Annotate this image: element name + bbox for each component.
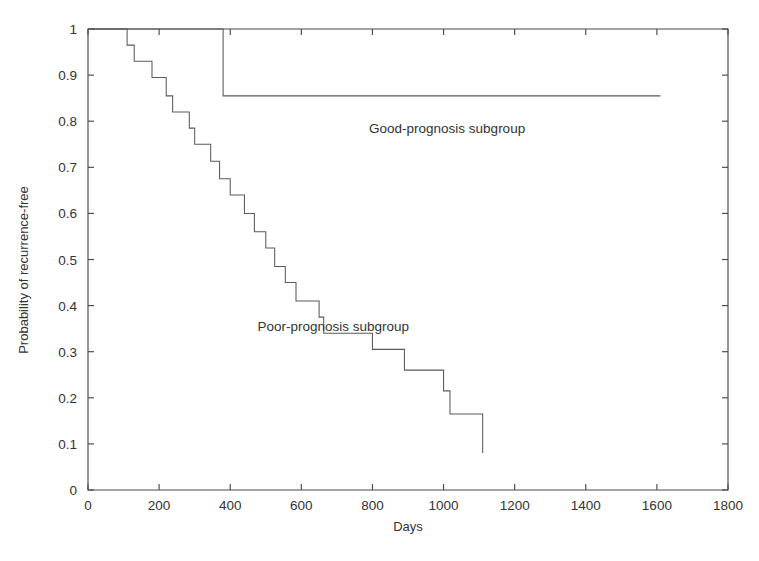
x-tick-label: 200 — [148, 498, 171, 513]
kaplan-meier-figure: 020040060080010001200140016001800 00.10.… — [0, 0, 759, 561]
y-tick-label: 0 — [69, 483, 77, 498]
y-tick-label: 0.2 — [58, 391, 77, 406]
x-tick-label: 400 — [219, 498, 242, 513]
y-tick-label: 0.7 — [58, 160, 77, 175]
axes-frame — [88, 29, 728, 490]
y-axis-tick-labels: 00.10.20.30.40.50.60.70.80.91 — [58, 22, 77, 498]
x-tick-label: 1200 — [500, 498, 530, 513]
series-annotations: Good-prognosis subgroupPoor-prognosis su… — [258, 121, 526, 334]
x-tick-label: 800 — [361, 498, 384, 513]
y-tick-label: 0.6 — [58, 206, 77, 221]
data-series — [88, 29, 660, 453]
survival-curve-chart: 020040060080010001200140016001800 00.10.… — [0, 0, 759, 561]
x-axis-label: Days — [393, 519, 423, 534]
y-tick-label: 0.3 — [58, 345, 77, 360]
y-tick-label: 0.9 — [58, 68, 77, 83]
y-tick-label: 0.5 — [58, 253, 77, 268]
y-axis-label: Probability of recurrence-free — [16, 186, 31, 354]
y-tick-label: 0.8 — [58, 114, 77, 129]
tick-marks — [88, 29, 728, 490]
x-tick-label: 0 — [84, 498, 92, 513]
curve-label: Good-prognosis subgroup — [369, 121, 525, 136]
x-axis-tick-labels: 020040060080010001200140016001800 — [84, 498, 743, 513]
x-tick-label: 1800 — [713, 498, 743, 513]
y-tick-label: 1 — [69, 22, 77, 37]
x-tick-label: 1600 — [642, 498, 672, 513]
x-tick-label: 600 — [290, 498, 313, 513]
curve-label: Poor-prognosis subgroup — [258, 319, 410, 334]
y-tick-label: 0.4 — [58, 299, 77, 314]
x-tick-label: 1400 — [571, 498, 601, 513]
x-tick-label: 1000 — [429, 498, 459, 513]
y-tick-label: 0.1 — [58, 437, 77, 452]
plot-frame — [88, 29, 728, 490]
survival-curve — [88, 29, 660, 96]
survival-curve — [88, 29, 483, 453]
